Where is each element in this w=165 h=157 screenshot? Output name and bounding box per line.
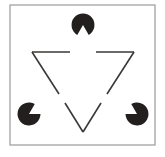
illusion-canvas: [0, 0, 165, 157]
kanizsa-triangle-figure: [0, 0, 165, 157]
